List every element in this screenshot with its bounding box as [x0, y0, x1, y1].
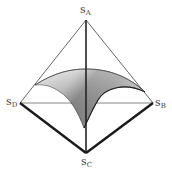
vertex-label-c: sC: [81, 156, 92, 169]
vertex-label-d: sD: [6, 96, 17, 109]
edge-b-c: [86, 103, 153, 153]
vertex-label-b-subscript: B: [161, 102, 166, 110]
vertex-label-c-subscript: C: [87, 161, 92, 169]
surface-shading: [35, 69, 145, 128]
tetrahedron-diagram: [0, 0, 172, 176]
vertex-label-a: sA: [80, 4, 91, 17]
vertex-label-a-subscript: A: [86, 9, 91, 17]
vertex-label-d-subscript: D: [12, 101, 18, 109]
vertex-label-b: sB: [155, 97, 166, 110]
